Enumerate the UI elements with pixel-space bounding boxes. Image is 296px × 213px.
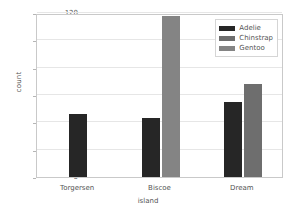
bar-gentoo-biscoe	[162, 16, 180, 177]
legend-label-chinstrap: Chinstrap	[239, 34, 273, 42]
legend-item: Chinstrap	[219, 33, 273, 43]
bar-adelie-dream	[224, 102, 242, 177]
y-tick-mark	[33, 178, 36, 179]
bar-adelie-torgersen	[69, 114, 87, 177]
x-axis-label: island	[0, 197, 296, 205]
bar-chart-figure: count 020406080100120 Adelie Chinstrap G…	[0, 0, 296, 213]
legend-swatch-chinstrap	[219, 36, 235, 41]
plot-area: Adelie Chinstrap Gentoo	[36, 14, 283, 178]
legend-item: Gentoo	[219, 43, 273, 53]
legend-swatch-adelie	[219, 26, 235, 31]
legend-item: Adelie	[219, 23, 273, 33]
x-tick-label: Dream	[202, 184, 282, 193]
legend-swatch-gentoo	[219, 46, 235, 51]
x-tick-label: Biscoe	[120, 184, 200, 193]
bar-chinstrap-dream	[244, 84, 262, 177]
legend-label-gentoo: Gentoo	[239, 44, 264, 52]
legend-label-adelie: Adelie	[239, 24, 261, 32]
y-axis-label: count	[15, 62, 23, 102]
gridline	[37, 67, 282, 68]
x-tick-label: Torgersen	[37, 184, 117, 193]
legend: Adelie Chinstrap Gentoo	[215, 19, 278, 57]
bar-adelie-biscoe	[142, 118, 160, 177]
gridline	[37, 12, 282, 13]
